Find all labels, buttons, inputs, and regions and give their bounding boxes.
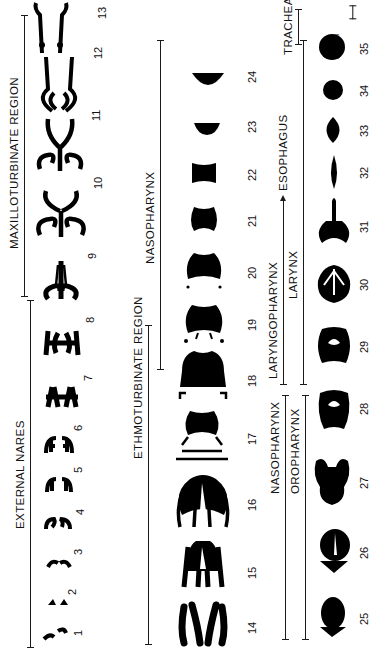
larynx-bracket xyxy=(303,40,304,385)
section-number: 14 xyxy=(246,622,258,634)
oropharynx-bracket xyxy=(305,395,306,640)
section-17 xyxy=(168,407,236,463)
section-number: 17 xyxy=(246,433,258,445)
section-35 xyxy=(316,31,348,63)
section-number: 6 xyxy=(72,425,84,431)
section-6 xyxy=(42,432,76,456)
section-number: 28 xyxy=(358,403,370,415)
scale-bar xyxy=(352,5,353,19)
section-number: 3 xyxy=(72,549,84,555)
section-15 xyxy=(170,539,236,595)
section-34 xyxy=(320,77,346,103)
section-7 xyxy=(42,383,82,411)
section-number: 20 xyxy=(246,267,258,279)
section-24 xyxy=(190,69,226,89)
section-1 xyxy=(40,623,70,643)
external-nares-bracket xyxy=(30,300,31,648)
section-23 xyxy=(192,119,222,139)
section-33 xyxy=(320,115,346,145)
nasopharynx-lower-label: NASOPHARYNX xyxy=(269,402,281,494)
section-number: 33 xyxy=(358,125,370,137)
section-number: 26 xyxy=(358,547,370,559)
section-number: 1 xyxy=(72,630,84,636)
section-number: 18 xyxy=(246,375,258,387)
ethmoturbinate-bracket xyxy=(148,325,149,645)
section-number: 9 xyxy=(86,253,98,259)
section-number: 34 xyxy=(358,85,370,97)
laryngopharynx-label: LARYNGOPHARYNX xyxy=(267,262,279,379)
section-number: 23 xyxy=(246,121,258,133)
section-12 xyxy=(32,53,86,115)
section-11 xyxy=(32,115,90,175)
larynx-label: LARYNX xyxy=(287,251,299,299)
section-25 xyxy=(316,593,350,641)
section-30 xyxy=(312,261,356,309)
section-number: 13 xyxy=(96,7,108,19)
section-32 xyxy=(326,153,342,191)
section-2 xyxy=(44,593,70,609)
section-number: 8 xyxy=(84,317,96,323)
section-29 xyxy=(314,323,354,369)
section-number: 5 xyxy=(72,467,84,473)
maxilloturbinate-bracket xyxy=(24,15,25,297)
section-number: 12 xyxy=(92,47,104,59)
nasopharynx-upper-bracket xyxy=(160,40,161,370)
section-number: 32 xyxy=(358,167,370,179)
section-number: 27 xyxy=(358,477,370,489)
section-26 xyxy=(316,527,354,577)
section-19 xyxy=(176,301,232,347)
section-number: 11 xyxy=(90,110,102,121)
section-number: 22 xyxy=(246,169,258,181)
section-number: 2 xyxy=(66,589,78,595)
section-16 xyxy=(166,469,240,533)
maxilloturbinate-label: MAXILLOTURBINATE REGION xyxy=(8,77,20,249)
section-20 xyxy=(180,251,228,291)
section-31 xyxy=(312,193,356,247)
ethmoturbinate-label: ETHMOTURBINATE REGION xyxy=(132,296,144,459)
section-8 xyxy=(40,327,84,359)
section-27 xyxy=(310,451,354,511)
section-number: 31 xyxy=(358,221,370,233)
external-nares-label: EXTERNAL NARES xyxy=(14,420,26,529)
section-13 xyxy=(30,1,72,55)
esophagus-label: ESOPHAGUS xyxy=(277,115,289,191)
section-number: 30 xyxy=(358,279,370,291)
section-10 xyxy=(32,187,90,241)
section-number: 15 xyxy=(246,567,258,579)
section-number: 4 xyxy=(74,509,86,515)
section-number: 19 xyxy=(246,319,258,331)
nasopharynx-lower-bracket xyxy=(285,395,286,640)
oropharynx-label: OROPHARYNX xyxy=(289,408,301,494)
section-number: 16 xyxy=(246,499,258,511)
trachea-label: TRACHEA xyxy=(282,0,294,55)
section-3 xyxy=(44,555,74,571)
section-4 xyxy=(42,513,74,533)
section-21 xyxy=(186,203,222,235)
section-number: 21 xyxy=(246,215,258,227)
section-22 xyxy=(188,159,220,187)
laryngopharynx-bracket xyxy=(283,200,284,385)
section-number: 25 xyxy=(358,613,370,625)
section-number: 10 xyxy=(92,177,104,189)
trachea-bracket xyxy=(298,9,299,45)
section-18 xyxy=(170,347,236,403)
section-5 xyxy=(42,473,76,495)
section-number: 7 xyxy=(82,375,94,381)
section-number: 29 xyxy=(358,341,370,353)
nasopharynx-upper-label: NASOPHARYNX xyxy=(144,172,156,264)
section-14 xyxy=(170,599,236,649)
section-28 xyxy=(314,385,354,433)
airway-cross-section-figure: EXTERNAL NARES MAXILLOTURBINATE REGION E… xyxy=(0,0,375,659)
section-number: 24 xyxy=(246,71,258,83)
section-9 xyxy=(38,259,84,305)
section-number: 35 xyxy=(358,43,370,55)
